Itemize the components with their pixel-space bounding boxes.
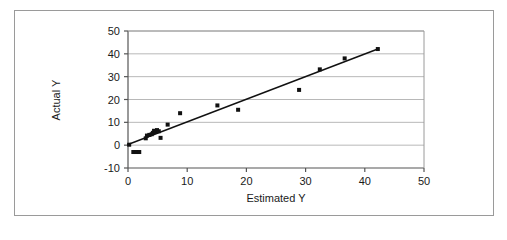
data-point (343, 56, 347, 60)
data-point (127, 143, 131, 147)
data-point (236, 108, 240, 112)
data-point (318, 67, 322, 71)
x-tick-label-0: 0 (125, 176, 131, 187)
data-point (166, 123, 170, 127)
x-tick-label-30: 30 (299, 176, 311, 187)
y-axis-title: Actual Y (50, 80, 62, 121)
data-point (137, 150, 141, 154)
data-point (159, 136, 163, 140)
x-axis-title: Estimated Y (246, 192, 305, 204)
y-tick-label-40: 40 (0, 48, 120, 59)
x-tick-label-50: 50 (418, 176, 430, 187)
y-tick-label--10: -10 (0, 163, 120, 174)
trend-line (128, 49, 378, 145)
data-point (157, 129, 161, 133)
y-tick-label-50: 50 (0, 26, 120, 37)
x-tick-label-40: 40 (359, 176, 371, 187)
x-tick-label-10: 10 (181, 176, 193, 187)
data-point (376, 47, 380, 51)
trend-line-path (128, 49, 378, 145)
x-tick-label-20: 20 (240, 176, 252, 187)
y-tick-label-0: 0 (0, 140, 120, 151)
data-point (215, 103, 219, 107)
data-point (297, 88, 301, 92)
data-point (178, 111, 182, 115)
tick-mark-group (124, 31, 424, 172)
